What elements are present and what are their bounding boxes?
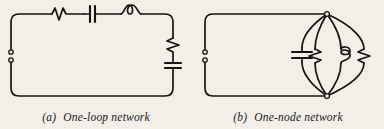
caption-panel-a: (a) One-loop network (0, 111, 192, 123)
caption-text-b: One-node network (254, 111, 342, 123)
terminal-bottom-a[interactable] (9, 58, 13, 62)
resistor-right-vertical-icon (167, 38, 179, 63)
caption-label-a: (a) (42, 111, 56, 123)
wire-bottom-loop (11, 62, 173, 96)
one-node-circuit-diagram (192, 0, 384, 108)
terminal-bottom-b[interactable] (203, 58, 207, 62)
figure-root: (a) One-loop network (0, 0, 384, 129)
branch-4-arc-upper (327, 14, 364, 49)
wire-top-left (11, 14, 52, 50)
resistor-top-horizontal-icon (52, 8, 84, 20)
caption-label-b: (b) (233, 111, 247, 123)
branch-4-arc-lower (327, 63, 364, 96)
inductor-top-coil-icon (121, 5, 141, 14)
node-bottom-b[interactable] (325, 94, 330, 99)
figure-panel-b: (b) One-node network (192, 0, 384, 129)
resistor-branch4-icon (358, 49, 370, 63)
terminal-top-b[interactable] (203, 50, 207, 54)
wire-top-right (141, 14, 173, 38)
caption-panel-b: (b) One-node network (192, 111, 384, 123)
terminal-top-a[interactable] (9, 50, 13, 54)
figure-panel-a: (a) One-loop network (0, 0, 192, 129)
one-loop-circuit-diagram (0, 0, 192, 108)
caption-text-a: One-loop network (63, 111, 150, 123)
inductor-branch3-coil-icon (341, 47, 350, 63)
node-top-b[interactable] (325, 12, 330, 17)
